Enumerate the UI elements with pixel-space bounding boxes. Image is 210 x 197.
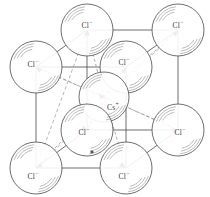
ion-sphere	[100, 142, 152, 194]
unit-cell-svg: Cl−Cl−Cl−Cl−Cs+Cl−Cl−Cl−Cl−	[0, 0, 210, 197]
ion-symbol: Cl	[78, 128, 86, 137]
ion-charge: −	[126, 171, 129, 177]
ion-charge: −	[126, 57, 129, 63]
ion-sphere	[61, 4, 113, 56]
ion-symbol: Cl	[81, 21, 89, 30]
ion-charge: −	[180, 20, 183, 26]
ion-symbol: Cl	[27, 60, 35, 69]
ion-charge: +	[116, 102, 119, 108]
ion-charge: −	[182, 127, 185, 133]
ion-charge: −	[86, 127, 89, 133]
ion-charge: −	[35, 171, 38, 177]
ion-symbol: Cl	[118, 172, 126, 181]
ion-charge: −	[89, 20, 92, 26]
ion-charge: −	[35, 59, 38, 65]
ion-symbol: Cl	[174, 128, 182, 137]
ion-sphere	[10, 41, 62, 93]
ion-sphere	[10, 142, 62, 194]
ion-symbol: Cl	[27, 172, 35, 181]
cscl-unit-cell-figure: Cl−Cl−Cl−Cl−Cs+Cl−Cl−Cl−Cl−	[0, 0, 210, 197]
ion-symbol: Cl	[118, 58, 126, 67]
ion-sphere-group	[10, 4, 204, 194]
ion-symbol: Cs	[107, 103, 116, 112]
base-centre-marker-dot	[90, 150, 93, 153]
ion-symbol: Cl	[172, 21, 180, 30]
ion-sphere	[152, 4, 204, 56]
